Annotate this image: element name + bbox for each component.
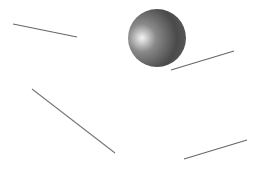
line-segment-4 [184, 140, 247, 159]
diagram-canvas [0, 0, 266, 174]
line-segment-3 [32, 89, 115, 153]
sphere [128, 9, 186, 67]
scene-svg [0, 0, 266, 174]
line-segment-1 [13, 24, 77, 37]
